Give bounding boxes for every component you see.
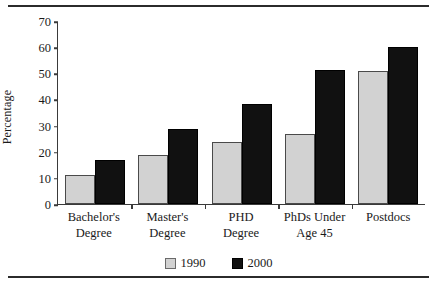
legend-swatch-icon xyxy=(165,258,176,269)
bar-1990 xyxy=(285,134,315,204)
bar-1990 xyxy=(212,142,242,204)
x-axis-category-label-line: Bachelor's xyxy=(57,209,131,225)
legend-item-2000[interactable]: 2000 xyxy=(232,256,273,271)
bar-2000 xyxy=(168,129,198,204)
bar-2000 xyxy=(315,70,345,204)
bar-2000 xyxy=(242,104,272,204)
x-axis-category-label-line: PhDs Under xyxy=(278,209,352,225)
top-divider-rule xyxy=(8,5,429,7)
x-axis-category-label-line: PHD xyxy=(204,209,278,225)
x-axis-category-label: PhDs UnderAge 45 xyxy=(278,209,352,245)
x-axis-category-label-line: Degree xyxy=(57,225,131,241)
x-axis-category-label-line: Master's xyxy=(131,209,205,225)
bottom-divider-rule xyxy=(8,276,429,278)
bar-1990 xyxy=(358,71,388,204)
x-axis-labels: Bachelor'sDegreeMaster'sDegreePHDDegreeP… xyxy=(57,209,425,245)
bar-group xyxy=(205,22,278,204)
legend-label: 2000 xyxy=(248,256,273,271)
bar-1990 xyxy=(138,155,168,204)
y-axis-title: Percentage xyxy=(0,52,20,182)
legend-label: 1990 xyxy=(181,256,206,271)
legend-item-1990[interactable]: 1990 xyxy=(165,256,206,271)
x-axis-category-label-line: Degree xyxy=(131,225,205,241)
legend-swatch-icon xyxy=(232,258,243,269)
chart-figure: Percentage 010203040506070 Bachelor'sDeg… xyxy=(0,0,437,292)
x-axis-category-label-line: Postdocs xyxy=(351,209,425,225)
x-axis-category-label: Postdocs xyxy=(351,209,425,245)
x-axis-category-label: PHDDegree xyxy=(204,209,278,245)
bar-1990 xyxy=(65,175,95,204)
bar-2000 xyxy=(388,47,418,204)
chart-legend: 19902000 xyxy=(0,256,437,271)
bar-2000 xyxy=(95,160,125,204)
x-axis-category-label-line: Degree xyxy=(204,225,278,241)
bar-group xyxy=(352,22,425,204)
x-axis-category-label: Master'sDegree xyxy=(131,209,205,245)
bar-group xyxy=(131,22,204,204)
bar-group xyxy=(278,22,351,204)
bar-group xyxy=(58,22,131,204)
x-axis-category-label: Bachelor'sDegree xyxy=(57,209,131,245)
y-axis-tick-mark xyxy=(54,204,58,206)
bar-groups xyxy=(58,22,425,204)
plot-area: 010203040506070 xyxy=(57,22,425,205)
x-axis-category-label-line: Age 45 xyxy=(278,225,352,241)
